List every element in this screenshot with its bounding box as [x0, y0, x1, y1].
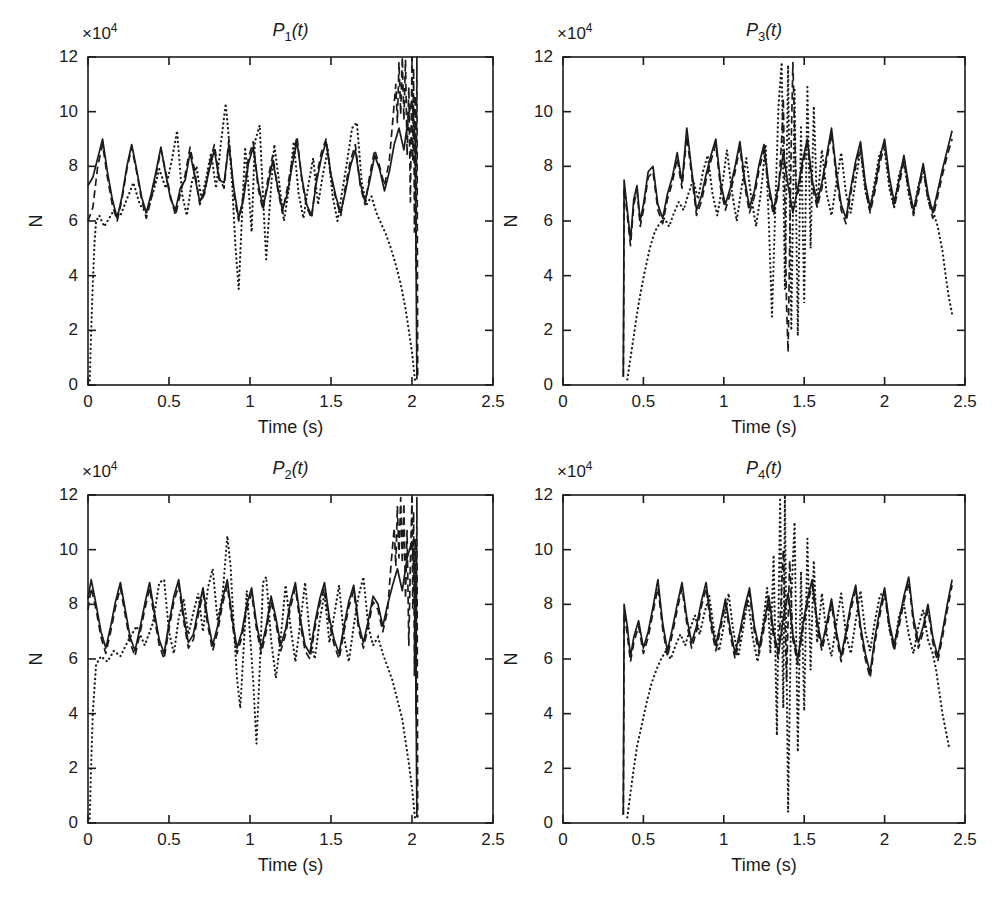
y-tick-label: 0	[30, 375, 78, 395]
series-dotted-line-P1	[90, 104, 416, 386]
x-tick-label: 0	[83, 392, 92, 412]
y-tick-label: 6	[505, 649, 553, 669]
y-tick-label: 8	[505, 156, 553, 176]
y-tick-label: 12	[505, 47, 553, 67]
y-tick-label: 2	[505, 758, 553, 778]
x-tick-label: 2	[407, 392, 416, 412]
y-tick-label: 10	[30, 540, 78, 560]
x-tick-label: 2.5	[481, 830, 505, 850]
axes-box-P2	[88, 495, 493, 823]
x-tick-label: 1.5	[319, 830, 343, 850]
x-tick-label: 1.5	[792, 392, 816, 412]
y-tick-label: 0	[30, 813, 78, 833]
y-tick-label: 8	[30, 156, 78, 176]
x-tick-label: 0	[558, 830, 567, 850]
plot-title: P3(t)	[563, 20, 965, 44]
x-tick-label: 2	[407, 830, 416, 850]
series-dashed-line-P1	[88, 57, 418, 380]
y-tick-label: 4	[30, 704, 78, 724]
plot-title: P4(t)	[563, 458, 965, 482]
y-tick-label: 6	[505, 211, 553, 231]
series-solid-line-P2	[88, 542, 417, 818]
y-tick-label: 2	[30, 320, 78, 340]
x-tick-label: 0.5	[157, 392, 181, 412]
y-tick-label: 8	[30, 594, 78, 614]
x-axis-label: Time (s)	[88, 417, 493, 438]
x-tick-label: 0.5	[632, 392, 656, 412]
x-axis-label: Time (s)	[88, 855, 493, 876]
y-tick-label: 0	[505, 813, 553, 833]
x-tick-label: 0.5	[632, 830, 656, 850]
y-tick-label: 4	[505, 704, 553, 724]
x-tick-label: 0	[558, 392, 567, 412]
y-tick-label: 10	[505, 540, 553, 560]
y-tick-label: 2	[505, 320, 553, 340]
y-tick-label: 8	[505, 594, 553, 614]
plot-title: P2(t)	[88, 458, 493, 482]
y-tick-label: 10	[30, 102, 78, 122]
plots-canvas	[0, 0, 999, 904]
axes-box-P1	[88, 57, 493, 385]
x-tick-label: 2.5	[953, 392, 977, 412]
x-tick-label: 1	[245, 392, 254, 412]
x-tick-label: 2.5	[481, 392, 505, 412]
x-tick-label: 1	[719, 392, 728, 412]
y-tick-label: 0	[505, 375, 553, 395]
y-tick-label: 2	[30, 758, 78, 778]
y-tick-label: 6	[30, 649, 78, 669]
series-dotted-line-P4	[627, 495, 949, 818]
y-tick-label: 10	[505, 102, 553, 122]
y-tick-label: 12	[30, 485, 78, 505]
series-dotted-line-P2	[90, 536, 416, 823]
series-dotted-line-P3	[627, 63, 952, 380]
x-axis-label: Time (s)	[563, 417, 965, 438]
y-tick-label: 12	[30, 47, 78, 67]
x-axis-label: Time (s)	[563, 855, 965, 876]
y-tick-label: 4	[30, 266, 78, 286]
series-dashed-line-P2	[88, 498, 418, 818]
x-tick-label: 1.5	[319, 392, 343, 412]
x-tick-label: 1.5	[792, 830, 816, 850]
y-tick-label: 4	[505, 266, 553, 286]
x-tick-label: 1	[245, 830, 254, 850]
x-tick-label: 1	[719, 830, 728, 850]
y-tick-label: 12	[505, 485, 553, 505]
x-tick-label: 0.5	[157, 830, 181, 850]
y-tick-label: 6	[30, 211, 78, 231]
plot-title: P1(t)	[88, 20, 493, 44]
x-tick-label: 2	[880, 830, 889, 850]
figure-force-time-histories: ×104 P1(t) N Time (s) ×104 P3(t) N Time …	[0, 0, 999, 904]
x-tick-label: 2	[880, 392, 889, 412]
x-tick-label: 0	[83, 830, 92, 850]
x-tick-label: 2.5	[953, 830, 977, 850]
